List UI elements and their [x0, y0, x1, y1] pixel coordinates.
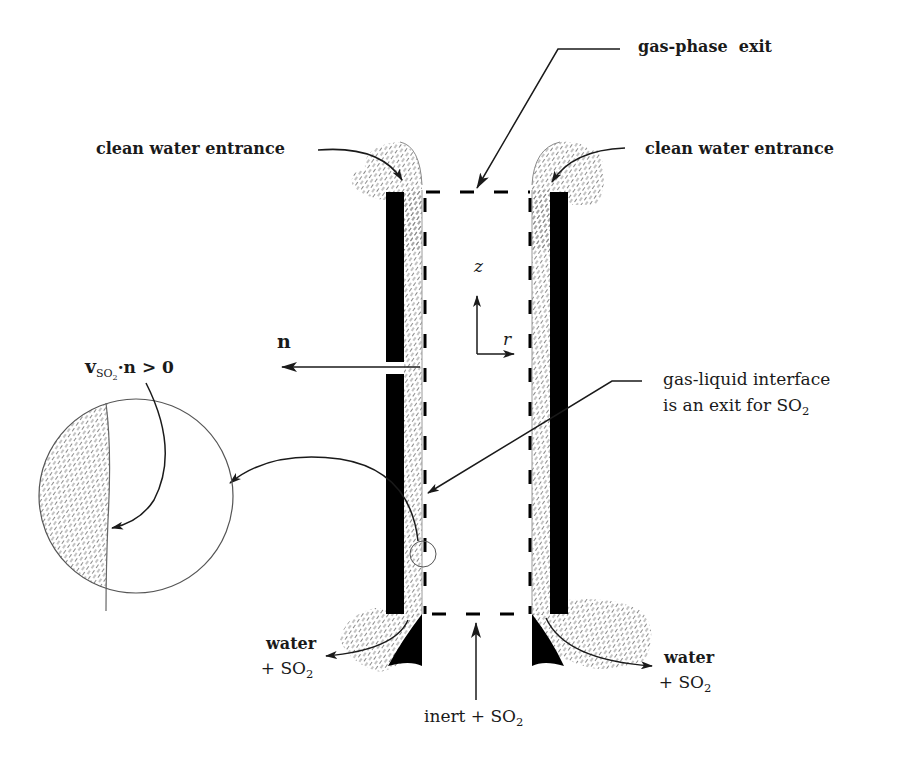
- label-water-out-left: water + SO2: [258, 632, 316, 680]
- magnified-interface-view: [0, 380, 233, 620]
- flux-suffix: ·n > 0: [118, 357, 174, 377]
- label-clean-water-entrance-left: clean water entrance: [96, 141, 285, 157]
- flux-condition-arrow: [112, 383, 165, 528]
- water-left-line2: + SO2: [258, 656, 316, 680]
- label-interface: gas-liquid interface is an exit for SO2: [663, 366, 830, 418]
- flux-v: v: [85, 355, 96, 377]
- water-right-line1: water: [656, 646, 714, 670]
- water-left-line1: water: [258, 632, 316, 656]
- label-gas-phase-exit: gas-phase exit: [638, 39, 772, 55]
- label-axis-z: z: [474, 258, 483, 275]
- interface-line2: is an exit for SO2: [663, 392, 830, 418]
- interface-line1: gas-liquid interface: [663, 366, 830, 392]
- label-water-out-right: water + SO2: [656, 646, 714, 694]
- label-inlet: inert + SO2: [424, 708, 523, 725]
- label-clean-water-entrance-right: clean water entrance: [645, 141, 834, 157]
- right-wall: [550, 192, 568, 614]
- label-flux-condition: vSO2·n > 0: [85, 357, 174, 378]
- diagram-canvas: gas-phase exit clean water entrance clea…: [0, 0, 897, 769]
- right-liquid-film: [532, 142, 651, 669]
- left-wall: [386, 192, 404, 614]
- water-right-line2: + SO2: [656, 670, 714, 694]
- flux-sub-so: SO: [96, 367, 113, 380]
- label-normal-vector: n: [277, 332, 291, 351]
- left-liquid-film: [340, 142, 422, 672]
- label-axis-r: r: [503, 331, 511, 348]
